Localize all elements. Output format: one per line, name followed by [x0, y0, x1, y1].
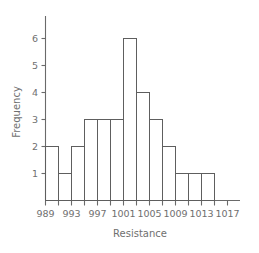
bar-995-997	[85, 120, 98, 201]
y-tick-label-6: 6	[32, 33, 38, 44]
bar-1001-1003	[124, 39, 137, 201]
bar-993-995	[72, 147, 85, 201]
chart-canvas: 1 2 3 4 5 6 Frequency	[0, 0, 259, 253]
x-tick-label-989: 989	[36, 208, 54, 219]
bar-997-999	[98, 120, 111, 201]
bar-1009-1011	[176, 174, 189, 201]
y-tick-label-5: 5	[32, 60, 38, 71]
x-tick-label-1001: 1001	[111, 208, 135, 219]
y-axis-ticks	[42, 39, 46, 174]
y-tick-label-1: 1	[32, 168, 38, 179]
y-axis-tick-labels: 1 2 3 4 5 6	[32, 33, 38, 179]
x-tick-label-993: 993	[62, 208, 80, 219]
bar-1013-1015	[202, 174, 215, 201]
y-tick-label-3: 3	[32, 114, 38, 125]
bar-999-1001	[111, 120, 124, 201]
histogram-bars	[46, 39, 215, 201]
x-tick-label-997: 997	[88, 208, 106, 219]
bar-991-993	[59, 174, 72, 201]
x-axis-title: Resistance	[113, 228, 167, 239]
bar-1005-1007	[150, 120, 163, 201]
bar-989-991	[46, 147, 59, 201]
y-tick-label-4: 4	[32, 87, 38, 98]
histogram-chart: 1 2 3 4 5 6 Frequency	[0, 0, 259, 253]
y-axis-title: Frequency	[11, 86, 22, 138]
x-tick-label-1005: 1005	[137, 208, 161, 219]
bar-1011-1013	[189, 174, 202, 201]
x-axis-ticks	[46, 201, 228, 206]
x-axis-tick-labels: 989 993 997 1001 1005 1009 1013 1017	[36, 208, 239, 219]
y-axis: 1 2 3 4 5 6 Frequency	[11, 16, 46, 201]
bar-1003-1005	[137, 93, 150, 201]
y-tick-label-2: 2	[32, 141, 38, 152]
x-tick-label-1017: 1017	[215, 208, 239, 219]
x-tick-label-1013: 1013	[189, 208, 213, 219]
x-axis: 989 993 997 1001 1005 1009 1013 1017 Res…	[36, 201, 240, 240]
x-tick-label-1009: 1009	[163, 208, 187, 219]
bar-1007-1009	[163, 147, 176, 201]
